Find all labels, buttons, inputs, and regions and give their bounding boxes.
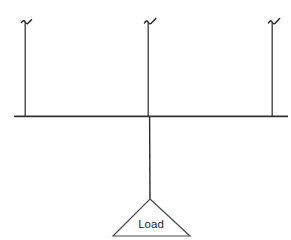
- hanger-center: [145, 18, 156, 116]
- load-label: Load: [138, 218, 164, 230]
- hook-top-icon: [145, 18, 156, 23]
- diagram-canvas: Load: [0, 0, 291, 240]
- hanger-right: [269, 19, 280, 117]
- load-triangle: Load: [113, 199, 190, 236]
- hook-top-icon: [269, 19, 280, 24]
- hook-top-icon: [22, 20, 32, 24]
- beam-load-diagram: Load: [0, 0, 291, 240]
- hanger-left: [22, 20, 32, 116]
